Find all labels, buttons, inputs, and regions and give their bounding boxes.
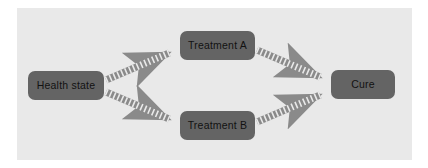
- node-treatment-a[interactable]: Treatment A: [180, 31, 255, 60]
- node-treatment-b[interactable]: Treatment B: [180, 111, 255, 140]
- node-label-treatment-b: Treatment B: [188, 120, 248, 131]
- node-label-cure: Cure: [351, 79, 375, 90]
- node-cure[interactable]: Cure: [331, 70, 395, 99]
- diagram-page: Health state Treatment A Treatment B Cur…: [0, 0, 428, 168]
- node-health-state[interactable]: Health state: [28, 71, 104, 100]
- edge-treatment-a-to-cure: [257, 50, 320, 77]
- edge-health-state-to-treatment-b: [106, 92, 169, 119]
- edge-health-state-to-treatment-a: [106, 53, 169, 80]
- edge-treatment-b-to-cure: [257, 95, 320, 122]
- node-label-health-state: Health state: [37, 80, 96, 91]
- node-label-treatment-a: Treatment A: [188, 40, 247, 51]
